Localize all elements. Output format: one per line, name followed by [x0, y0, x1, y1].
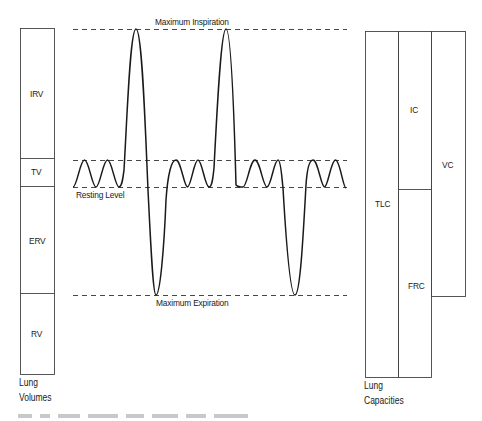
spirogram-diagram — [0, 0, 482, 421]
lung-capacities-caption: Lung Capacities — [364, 378, 404, 408]
cropped-figure-caption — [18, 414, 278, 421]
ic-frc-box — [399, 32, 432, 378]
max-inspiration-label: Maximum Inspiration — [155, 16, 229, 27]
lung-volumes-column — [21, 29, 55, 375]
resting-level-label: Resting Level — [76, 189, 124, 200]
tv-label: TV — [31, 166, 41, 177]
frc-label: FRC — [408, 280, 425, 291]
tlc-label: TLC — [375, 198, 390, 209]
breathing-waveform — [73, 29, 346, 295]
lung-volumes-caption-line2: Volumes — [19, 390, 52, 405]
lung-volumes-box — [21, 29, 55, 375]
lung-volumes-caption: Lung Volumes — [19, 375, 52, 405]
erv-label: ERV — [29, 235, 46, 246]
irv-label: IRV — [30, 88, 43, 99]
ic-label: IC — [410, 104, 418, 115]
vc-label: VC — [442, 159, 453, 170]
lung-capacities-caption-line2: Capacities — [364, 393, 404, 408]
lung-volumes-caption-line1: Lung — [19, 375, 52, 390]
rv-label: RV — [31, 328, 42, 339]
lung-capacities-caption-line1: Lung — [364, 378, 404, 393]
max-expiration-label: Maximum Expiration — [156, 297, 229, 308]
reference-lines — [73, 30, 347, 296]
